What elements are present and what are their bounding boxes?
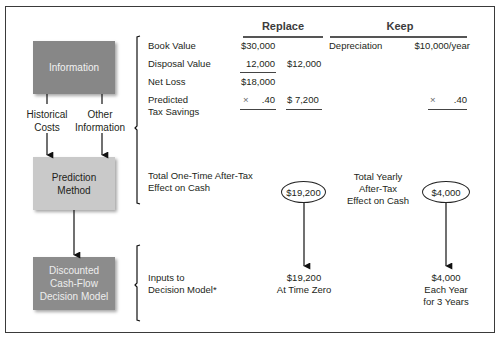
disposal-value-replace-b: $12,000 [287, 58, 321, 70]
disposal-underline [240, 72, 276, 73]
predicted-tax-savings-label: PredictedTax Savings [148, 94, 199, 118]
net-loss-replace: $18,000 [241, 76, 275, 88]
yearly-effect-label: Total YearlyAfter-TaxEffect on Cash [345, 171, 411, 207]
inputs-to-decision-label: Inputs toDecision Model* [148, 272, 217, 296]
disposal-value-label: Disposal Value [148, 58, 211, 70]
depreciation-label: Depreciation [329, 40, 382, 52]
book-value-replace: $30,000 [241, 40, 275, 52]
information-brace [135, 36, 140, 204]
depreciation-value: $10,000/year [400, 40, 470, 52]
one-time-effect-oval: $19,200 [281, 181, 326, 203]
replace-decision-input: $19,200At Time Zero [270, 272, 338, 296]
keep-header: Keep [330, 20, 470, 32]
keep-tax-rate: .40 [445, 94, 467, 106]
tax-savings-underline [286, 109, 322, 110]
replace-header-rule [243, 36, 323, 38]
replace-tax-savings: $ 7,200 [287, 94, 319, 106]
book-value-label: Book Value [148, 40, 196, 52]
net-loss-label: Net Loss [148, 76, 186, 88]
replace-multiply-sign: × [243, 94, 249, 106]
one-time-effect-label: Total One-Time After-TaxEffect on Cash [148, 170, 253, 194]
yearly-effect-oval: $4,000 [422, 181, 470, 203]
one-time-effect-value: $19,200 [286, 187, 320, 198]
keep-multiply-sign: × [430, 94, 436, 106]
keep-decision-input: $4,000Each Yearfor 3 Years [416, 272, 476, 308]
decision-brace [135, 245, 140, 321]
keep-header-rule [330, 36, 467, 38]
yearly-effect-value: $4,000 [431, 187, 460, 198]
keep-tax-rate-underline [428, 109, 467, 110]
replace-header: Replace [243, 20, 323, 32]
disposal-value-replace-a: 12,000 [241, 58, 275, 70]
tax-rate-underline [240, 109, 276, 110]
replace-tax-rate: .40 [255, 94, 275, 106]
